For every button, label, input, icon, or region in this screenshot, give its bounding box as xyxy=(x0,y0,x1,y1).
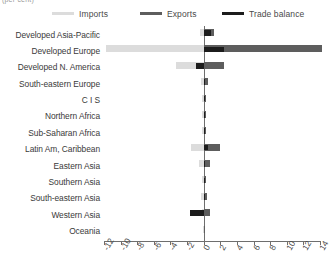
category-label: C I S xyxy=(0,95,100,105)
x-axis-tick-label: 8 xyxy=(267,243,278,252)
bar-imports xyxy=(191,144,203,151)
category-label: Southern Asia xyxy=(0,177,100,187)
legend-swatch-exports xyxy=(140,12,162,15)
bar-group xyxy=(104,94,320,110)
bar-group xyxy=(104,159,320,175)
category-label: South-eastern Europe xyxy=(0,79,100,89)
bar-trade-balance xyxy=(204,178,205,184)
x-axis-tick-label: 4 xyxy=(234,243,245,252)
bar-trade-balance xyxy=(204,47,225,53)
bar-group xyxy=(104,110,320,126)
bar-group xyxy=(104,77,320,93)
category-label: Oceania xyxy=(0,226,100,236)
bar-imports xyxy=(106,45,203,52)
legend-swatch-trade-balance xyxy=(222,12,244,15)
category-label: Developed Europe xyxy=(0,46,100,56)
legend-label-imports: Imports xyxy=(79,9,108,19)
bar-trade-balance xyxy=(204,128,205,134)
bar-trade-balance xyxy=(204,30,211,36)
bar-exports xyxy=(204,209,210,216)
bar-trade-balance xyxy=(204,161,206,167)
chart-legend: Imports Exports Trade balance xyxy=(0,4,320,17)
x-axis-tick-label: -6 xyxy=(151,240,163,252)
bar-trade-balance xyxy=(204,96,205,102)
bar-trade-balance xyxy=(204,79,205,85)
bar-trade-balance xyxy=(196,63,203,69)
bar-group xyxy=(104,143,320,159)
bar-group xyxy=(104,61,320,77)
plot-area xyxy=(104,28,320,241)
legend-label-trade-balance: Trade balance xyxy=(249,9,304,19)
bar-group xyxy=(104,44,320,60)
chart-title-remnant: (per cent) xyxy=(2,0,34,3)
bar-group xyxy=(104,175,320,191)
bar-trade-balance xyxy=(204,112,205,118)
bar-trade-balance xyxy=(204,145,208,151)
x-axis-tick-label: -2 xyxy=(184,240,196,252)
category-label: South-eastern Asia xyxy=(0,193,100,203)
category-label: Sub-Saharan Africa xyxy=(0,128,100,138)
category-label: Latin Am, Caribbean xyxy=(0,144,100,154)
bar-group xyxy=(104,126,320,142)
x-axis-tick-label: 6 xyxy=(251,243,262,252)
bar-group xyxy=(104,28,320,44)
legend-item-imports: Imports xyxy=(52,4,108,17)
bar-exports xyxy=(204,226,205,233)
bar-trade-balance xyxy=(204,194,205,200)
legend-swatch-imports xyxy=(52,12,74,15)
bar-group xyxy=(104,208,320,224)
legend-item-exports: Exports xyxy=(140,4,197,17)
category-label: Northern Africa xyxy=(0,111,100,121)
x-axis-tick-label: 2 xyxy=(217,243,228,252)
category-label: Eastern Asia xyxy=(0,161,100,171)
category-axis-labels: Developed Asia-PacificDeveloped EuropeDe… xyxy=(0,28,100,241)
legend-item-trade-balance: Trade balance xyxy=(222,4,304,17)
bar-trade-balance xyxy=(190,210,204,216)
x-axis-tick-label: -4 xyxy=(167,240,179,252)
bar-exports xyxy=(204,62,224,69)
x-axis-tick-label: -8 xyxy=(134,240,146,252)
category-label: Western Asia xyxy=(0,210,100,220)
legend-label-exports: Exports xyxy=(167,9,197,19)
x-axis-tick-label: 0 xyxy=(201,243,212,252)
bar-group xyxy=(104,192,320,208)
category-label: Developed Asia-Pacific xyxy=(0,30,100,40)
category-label: Developed N. America xyxy=(0,62,100,72)
